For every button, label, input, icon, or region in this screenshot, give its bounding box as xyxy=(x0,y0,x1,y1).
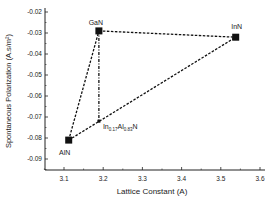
x-tick-label: 3.4 xyxy=(177,175,186,182)
square-marker-inn xyxy=(232,34,239,41)
y-tick-label: -0.02 xyxy=(27,8,42,15)
plot-area: 3.13.23.33.43.53.6 -0.02-0.03-0.04-0.05-… xyxy=(0,0,276,205)
label-aln: AlN xyxy=(59,149,70,156)
square-marker-aln xyxy=(65,137,72,144)
lattice-polarization-chart: 3.13.23.33.43.53.6 -0.02-0.03-0.04-0.05-… xyxy=(0,0,276,205)
x-tick-label: 3.2 xyxy=(99,175,108,182)
data-points xyxy=(65,27,239,143)
x-tick-label: 3.3 xyxy=(138,175,147,182)
y-tick-label: -0.06 xyxy=(27,92,42,99)
connector-line xyxy=(99,31,236,37)
axes xyxy=(45,8,265,170)
label-gan: GaN xyxy=(89,19,103,26)
y-tick-label: -0.03 xyxy=(27,29,42,36)
x-tick-label: 3.6 xyxy=(255,175,264,182)
label-inn: InN xyxy=(231,23,242,30)
x-tick-label: 3.1 xyxy=(59,175,68,182)
square-marker-in017al083n xyxy=(97,120,100,123)
y-tick-label: -0.05 xyxy=(27,71,42,78)
y-tick-label: -0.04 xyxy=(27,50,42,57)
y-tick-label: -0.07 xyxy=(27,113,42,120)
point-labels: GaNInNAlNIn0.17Al0.83N xyxy=(59,19,242,156)
y-tick-label: -0.09 xyxy=(27,155,42,162)
y-tick-label: -0.08 xyxy=(27,134,42,141)
connector-line xyxy=(69,37,236,140)
x-tick-label: 3.5 xyxy=(216,175,225,182)
label-inaln: In0.17Al0.83N xyxy=(103,123,138,132)
label-inaln-part: N xyxy=(132,123,137,130)
y-axis-label: Spontaneous Polarization (A.s/m²) xyxy=(4,33,13,148)
square-marker-gan xyxy=(95,27,102,34)
connecting-lines xyxy=(69,31,236,140)
x-axis-ticks: 3.13.23.33.43.53.6 xyxy=(44,167,264,182)
x-axis-label: Lattice Constant (A) xyxy=(117,187,188,196)
